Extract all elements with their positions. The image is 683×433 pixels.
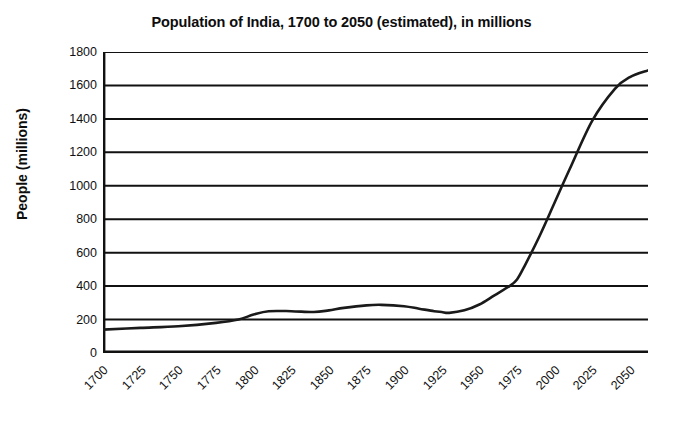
x-tick-label: 1900 <box>382 363 412 393</box>
plot-frame <box>103 52 648 353</box>
x-tick-label: 1975 <box>495 363 525 393</box>
x-axis-tick-labels: 1700172517501775180018251850187519001925… <box>103 353 663 433</box>
y-tick-label: 800 <box>51 213 97 225</box>
x-tick-label: 1800 <box>232 363 262 393</box>
data-series-line <box>103 70 648 329</box>
plot-svg <box>103 52 648 353</box>
y-tick-label: 600 <box>51 247 97 259</box>
gridlines <box>103 52 648 320</box>
y-tick-label: 400 <box>51 280 97 292</box>
plot-area <box>103 52 648 353</box>
y-axis-tick-labels: 020040060080010001200140016001800 <box>47 52 97 353</box>
chart-title: Population of India, 1700 to 2050 (estim… <box>0 14 683 30</box>
x-tick-label: 2025 <box>570 363 600 393</box>
y-tick-label: 200 <box>51 314 97 326</box>
x-tick-label: 1825 <box>269 363 299 393</box>
x-tick-label: 1875 <box>345 363 375 393</box>
x-tick-label: 1750 <box>156 363 186 393</box>
population-chart: Population of India, 1700 to 2050 (estim… <box>0 0 683 433</box>
y-tick-label: 0 <box>51 347 97 359</box>
x-tick-label: 1950 <box>458 363 488 393</box>
y-tick-label: 1000 <box>51 180 97 192</box>
x-tick-label: 1700 <box>81 363 111 393</box>
x-tick-label: 1725 <box>119 363 149 393</box>
y-tick-label: 1400 <box>51 113 97 125</box>
y-tick-label: 1800 <box>51 46 97 58</box>
x-tick-label: 1925 <box>420 363 450 393</box>
x-tick-label: 1850 <box>307 363 337 393</box>
x-tick-label: 2050 <box>608 363 638 393</box>
y-tick-label: 1600 <box>51 79 97 91</box>
y-tick-label: 1200 <box>51 146 97 158</box>
x-tick-label: 1775 <box>194 363 224 393</box>
y-axis-title: People (millions) <box>14 84 30 244</box>
x-tick-label: 2000 <box>533 363 563 393</box>
